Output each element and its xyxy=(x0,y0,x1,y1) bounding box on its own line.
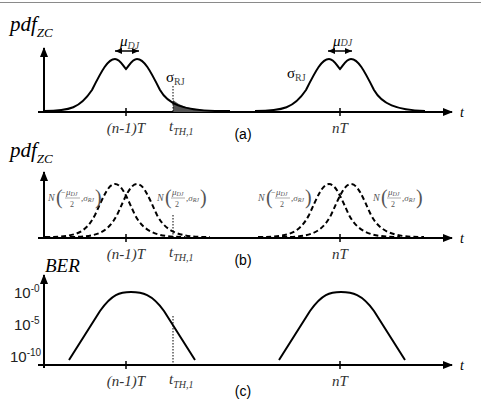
svg-text:μDJ: μDJ xyxy=(275,187,288,197)
panel-c-tick-label-n: nT xyxy=(332,373,350,389)
svg-text:(: ( xyxy=(165,186,172,209)
panel-b-tick-label-n: nT xyxy=(332,246,350,262)
panel-b-caption: (b) xyxy=(234,252,251,268)
panel-a-mu-label-left: μDJ xyxy=(119,33,140,51)
panel-c-caption: (c) xyxy=(235,383,251,399)
svg-text:,σRJ: ,σRJ xyxy=(81,193,94,203)
panel-c-x-label: t xyxy=(460,358,465,373)
svg-text:N: N xyxy=(257,192,266,203)
svg-text:N: N xyxy=(47,192,56,203)
svg-text:,σRJ: ,σRJ xyxy=(291,193,304,203)
panel-a-tick-label-n-1: (n-1)T xyxy=(107,120,147,137)
panel-a-sigma-label-right: σRJ xyxy=(287,65,306,83)
panel-c-ber-curve-right xyxy=(279,292,405,360)
panel-b-formula-right-2: N ( μDJ 2 ,σRJ ) xyxy=(372,186,423,209)
panel-b: pdfZC t (n-1)T nT tTH,1 N ( − μDJ 2 ,σRJ… xyxy=(8,138,465,268)
panel-c: BER t 10-0 10-5 10-10 (n-1)T nT tTH,1 (c… xyxy=(10,255,465,399)
panel-c-ber-curve-left xyxy=(69,292,195,360)
svg-text:μDJ: μDJ xyxy=(65,187,78,197)
svg-text:,σRJ: ,σRJ xyxy=(402,193,415,203)
panel-b-formula-left-2: N ( − μDJ 2 ,σRJ ) xyxy=(257,186,312,209)
jitter-diagram: pdfZC t (n-1)T nT tTH,1 μDJ μRJDJ σRJ σR… xyxy=(0,0,481,415)
svg-text:,σRJ: ,σRJ xyxy=(186,193,199,203)
svg-text:2: 2 xyxy=(280,200,284,209)
panel-a-threshold-label: tTH,1 xyxy=(169,118,193,137)
panel-c-ylabel: BER xyxy=(45,255,80,276)
panel-a-pdf-right xyxy=(255,59,425,111)
svg-text:): ) xyxy=(200,186,207,209)
panel-c-ytick-5: 10-5 xyxy=(14,315,40,333)
svg-text:): ) xyxy=(416,186,423,209)
panel-a-caption: (a) xyxy=(234,126,251,142)
svg-text:μDJ: μDJ xyxy=(171,187,184,197)
panel-a-sigma-label-left: σRJ xyxy=(166,69,185,87)
panel-a-tick-label-n: nT xyxy=(332,120,350,136)
panel-a-mu-label-right: μRJDJ xyxy=(332,33,353,49)
panel-a-ylabel: pdfZC xyxy=(8,12,53,40)
panel-c-threshold-label: tTH,1 xyxy=(169,371,193,390)
svg-text:): ) xyxy=(95,186,102,209)
svg-text:μDJ: μDJ xyxy=(387,187,400,197)
panel-b-ylabel: pdfZC xyxy=(8,138,53,166)
panel-b-threshold-label: tTH,1 xyxy=(169,244,193,263)
panel-b-formula-right-1: N ( μDJ 2 ,σRJ ) xyxy=(156,186,207,209)
panel-b-tick-label-n-1: (n-1)T xyxy=(107,246,147,263)
panel-b-gaussian-right-pos xyxy=(282,184,424,237)
panel-a: pdfZC t (n-1)T nT tTH,1 μDJ μRJDJ σRJ σR… xyxy=(8,12,465,142)
svg-text:N: N xyxy=(372,192,381,203)
svg-text:(: ( xyxy=(381,186,388,209)
panel-b-formula-left-1: N ( − μDJ 2 ,σRJ ) xyxy=(47,186,102,209)
panel-c-ytick-10: 10-10 xyxy=(10,347,42,365)
panel-a-pdf-left xyxy=(44,59,230,111)
panel-a-x-label: t xyxy=(460,105,465,120)
panel-c-tick-label-n-1: (n-1)T xyxy=(107,373,147,390)
svg-text:2: 2 xyxy=(70,200,74,209)
svg-text:2: 2 xyxy=(175,200,179,209)
svg-text:): ) xyxy=(305,186,312,209)
panel-b-x-label: t xyxy=(460,231,465,246)
svg-text:N: N xyxy=(156,192,165,203)
panel-c-ytick-0: 10-0 xyxy=(14,283,40,301)
svg-text:2: 2 xyxy=(391,200,395,209)
panel-b-gaussian-left-pos xyxy=(70,184,210,237)
